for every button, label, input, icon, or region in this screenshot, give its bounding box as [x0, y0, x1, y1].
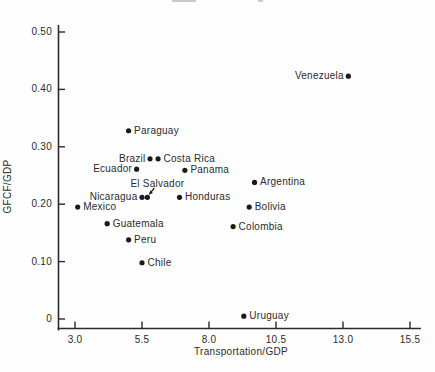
point-label-ecuador: Ecuador: [93, 162, 132, 175]
point-label-argentina: Argentina: [260, 175, 305, 188]
point-label-peru: Peru: [134, 233, 156, 246]
data-point-colombia: [231, 224, 236, 229]
point-label-bolivia: Bolivia: [255, 200, 286, 213]
y-tick-label: 0.50: [18, 26, 52, 38]
point-label-el-salvador: El Salvador: [130, 177, 184, 190]
point-label-uruguay: Uruguay: [249, 309, 289, 322]
y-tick-label: 0.30: [18, 141, 52, 153]
data-point-venezuela: [346, 74, 351, 79]
data-point-panama: [182, 168, 187, 173]
data-point-argentina: [252, 180, 257, 185]
x-tick-label: 3.0: [55, 334, 95, 346]
data-point-chile: [139, 260, 144, 265]
point-label-paraguay: Paraguay: [134, 124, 179, 137]
point-label-honduras: Honduras: [185, 190, 230, 203]
data-point-costa-rica: [155, 156, 160, 161]
data-point-el-salvador: [145, 195, 150, 200]
data-point-nicaragua: [139, 195, 144, 200]
data-point-guatemala: [105, 221, 110, 226]
data-point-brazil: [147, 156, 152, 161]
point-label-guatemala: Guatemala: [113, 217, 164, 230]
data-point-honduras: [177, 195, 182, 200]
y-tick-label: 0.20: [18, 198, 52, 210]
y-tick-label: 0.10: [18, 256, 52, 268]
x-tick-label: 8.0: [189, 334, 229, 346]
y-tick-label: 0: [18, 313, 52, 325]
data-point-bolivia: [247, 204, 252, 209]
data-point-mexico: [75, 204, 80, 209]
point-label-venezuela: Venezuela: [295, 69, 344, 82]
x-tick-label: 10.5: [256, 334, 296, 346]
plot-canvas: [0, 0, 435, 372]
point-label-mexico: Mexico: [83, 200, 116, 213]
point-label-panama: Panama: [190, 163, 229, 176]
x-tick-label: 5.5: [122, 334, 162, 346]
x-axis-title: Transportation/GDP: [151, 346, 331, 357]
data-point-uruguay: [241, 314, 246, 319]
x-tick-label: 15.5: [390, 334, 430, 346]
scatter-plot-figure: 0.500.400.300.200.1003.05.58.010.513.015…: [0, 0, 435, 372]
data-point-peru: [126, 237, 131, 242]
x-tick-label: 13.0: [323, 334, 363, 346]
point-label-chile: Chile: [148, 256, 172, 269]
data-point-paraguay: [126, 128, 131, 133]
data-point-ecuador: [134, 167, 139, 172]
y-tick-label: 0.40: [18, 83, 52, 95]
y-axis-title: GFCF/GDP: [2, 152, 13, 222]
point-label-colombia: Colombia: [239, 220, 283, 233]
